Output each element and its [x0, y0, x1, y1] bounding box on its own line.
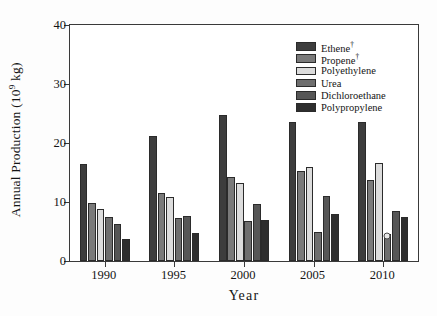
legend-label: Urea	[321, 78, 341, 89]
x-axis-title: Year	[69, 288, 419, 304]
bar	[236, 183, 244, 261]
y-axis-tick-label: 10	[54, 195, 67, 210]
legend-label: Dichloroethane	[321, 90, 386, 101]
legend-label-footnote: †	[350, 40, 354, 49]
bar	[227, 177, 235, 261]
bar	[323, 196, 331, 261]
x-axis-tick	[244, 261, 245, 267]
legend-label: Polypropylene	[321, 102, 382, 113]
legend-label: Propene†	[321, 51, 359, 66]
legend-item[interactable]: Urea	[296, 78, 386, 89]
x-axis-tick-label: 2010	[370, 268, 395, 283]
y-axis-title: Annual Production (109 kg)	[6, 63, 24, 218]
bar	[392, 211, 400, 261]
legend-swatch-icon	[296, 67, 316, 76]
y-axis-tick-label: 20	[54, 136, 67, 151]
legend-item[interactable]: Ethene†	[296, 41, 386, 52]
bar	[306, 167, 314, 261]
legend-item[interactable]: Polypropylene	[296, 102, 386, 113]
legend-item[interactable]: Dichloroethane	[296, 90, 386, 101]
bar	[289, 122, 297, 261]
bar	[166, 197, 174, 261]
legend-swatch-icon	[296, 42, 316, 51]
x-axis-tick-label: 2000	[231, 268, 256, 283]
bar	[375, 163, 383, 261]
bar	[297, 171, 305, 261]
legend-item[interactable]: Polyethylene	[296, 65, 386, 76]
bar	[175, 218, 183, 261]
bar	[149, 136, 157, 261]
y-axis-title-base: Annual Production (10	[8, 90, 23, 218]
bar	[80, 164, 88, 261]
bar	[183, 216, 191, 261]
legend-label-footnote: †	[355, 52, 359, 61]
bar	[367, 180, 375, 261]
legend-swatch-icon	[296, 103, 316, 112]
bar-annotation-marker	[384, 232, 391, 239]
bar	[97, 209, 105, 261]
legend-swatch-icon	[296, 79, 316, 88]
bar	[158, 193, 166, 261]
x-axis-tick	[174, 261, 175, 267]
legend-label: Polyethylene	[321, 65, 376, 76]
bar	[358, 122, 366, 261]
bar	[261, 220, 269, 261]
x-axis-tick-label: 1990	[91, 268, 116, 283]
y-axis-title-wrap: Annual Production (109 kg)	[0, 0, 30, 280]
bar	[88, 203, 96, 261]
y-axis-tick-label: 30	[54, 77, 67, 92]
bar	[105, 217, 113, 261]
chart-figure: Annual Production (109 kg) 010203040 Yea…	[0, 0, 437, 316]
legend-swatch-icon	[296, 91, 316, 100]
bar	[314, 232, 322, 261]
x-axis-tick-label: 1995	[161, 268, 186, 283]
x-axis-tick-label: 2005	[300, 268, 325, 283]
y-axis-title-tail: kg)	[8, 63, 23, 85]
bar	[114, 224, 122, 261]
bar	[401, 217, 409, 261]
x-axis-tick	[105, 261, 106, 267]
x-axis-tick	[383, 261, 384, 267]
bar	[331, 214, 339, 261]
bar	[122, 239, 130, 261]
bar	[192, 233, 200, 261]
legend-item[interactable]: Propene†	[296, 53, 386, 64]
bar	[244, 221, 252, 261]
y-axis-tick-label: 0	[60, 254, 66, 269]
legend-swatch-icon	[296, 54, 316, 63]
bar	[219, 115, 227, 261]
x-axis-tick	[314, 261, 315, 267]
y-axis-title-exponent: 9	[6, 85, 16, 90]
chart-legend: Ethene†Propene†PolyethyleneUreaDichloroe…	[296, 41, 386, 113]
y-axis-tick-label: 40	[54, 18, 67, 33]
bar	[253, 204, 261, 261]
